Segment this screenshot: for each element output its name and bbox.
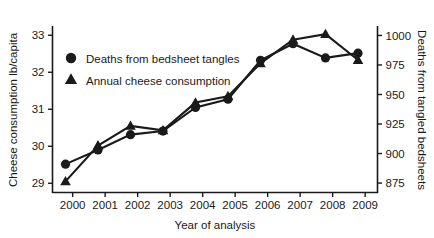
left-tick-label: 29 bbox=[32, 177, 45, 189]
chart-container: 2930313233 8759009259509751000 200020012… bbox=[0, 0, 434, 238]
x-tick-label: 2000 bbox=[60, 199, 86, 211]
right-tick-label: 950 bbox=[386, 89, 405, 101]
right-tick-label: 1000 bbox=[386, 30, 412, 42]
legend-label-deaths: Deaths from bedsheet tangles bbox=[86, 53, 240, 65]
right-tick-label: 900 bbox=[386, 148, 405, 160]
x-tick-label: 2003 bbox=[157, 199, 183, 211]
left-tick-label: 31 bbox=[32, 103, 45, 115]
x-tick-label: 2004 bbox=[190, 199, 216, 211]
legend-circle-marker-icon bbox=[66, 53, 76, 63]
x-tick-label: 2007 bbox=[287, 199, 313, 211]
spurious-correlation-line-chart: 2930313233 8759009259509751000 200020012… bbox=[0, 0, 434, 238]
right-tick-label: 875 bbox=[386, 177, 405, 189]
x-tick-label: 2006 bbox=[255, 199, 281, 211]
right-tick-label: 975 bbox=[386, 59, 405, 71]
left-tick-label: 32 bbox=[32, 66, 45, 78]
right-axis-title: Deaths from tangled bedsheets bbox=[416, 30, 428, 190]
data-point-circle bbox=[61, 160, 70, 169]
legend-label-cheese: Annual cheese consumption bbox=[86, 75, 231, 87]
left-tick-label: 30 bbox=[32, 140, 45, 152]
x-axis-title: Year of analysis bbox=[175, 219, 256, 231]
x-tick-label: 2009 bbox=[352, 199, 378, 211]
data-point-circle bbox=[126, 130, 135, 139]
x-tick-label: 2008 bbox=[320, 199, 346, 211]
x-tick-label: 2001 bbox=[92, 199, 118, 211]
x-tick-label: 2002 bbox=[125, 199, 151, 211]
left-axis-title: Cheese consumption lb/capita bbox=[7, 32, 19, 187]
data-point-circle bbox=[321, 53, 330, 62]
right-tick-label: 925 bbox=[386, 118, 405, 130]
x-tick-label: 2005 bbox=[222, 199, 248, 211]
left-tick-label: 33 bbox=[32, 29, 45, 41]
